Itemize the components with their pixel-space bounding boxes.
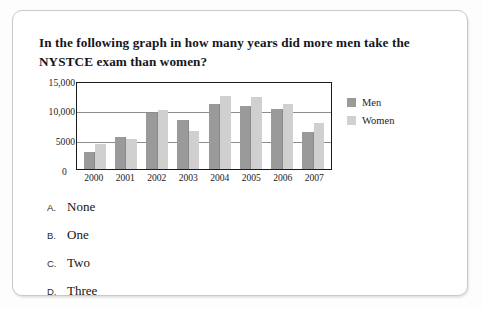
x-axis-labels: 20002001200220032004200520062007 xyxy=(76,172,332,183)
bar-men-2005 xyxy=(240,106,252,169)
question-text: In the following graph in how many years… xyxy=(39,33,449,71)
bar-women-2007 xyxy=(314,123,325,169)
x-tick-label-2006: 2006 xyxy=(272,172,294,183)
bar-men-2007 xyxy=(302,132,314,169)
bar-group-2006 xyxy=(271,83,293,169)
legend-item-men: Men xyxy=(347,97,394,108)
x-tick-label-2007: 2007 xyxy=(303,172,325,183)
bar-group-2003 xyxy=(177,83,199,169)
bar-men-2004 xyxy=(209,104,221,169)
x-tick-label-2005: 2005 xyxy=(240,172,262,183)
bar-women-2000 xyxy=(95,144,106,169)
x-tick-label-2002: 2002 xyxy=(146,172,168,183)
bar-men-2000 xyxy=(84,152,96,169)
legend-swatch-women-icon xyxy=(347,116,356,125)
option-label: One xyxy=(67,227,89,243)
x-tick-label-2003: 2003 xyxy=(177,172,199,183)
option-two[interactable]: C.Two xyxy=(47,255,347,271)
bar-men-2002 xyxy=(146,113,158,169)
bar-group-2000 xyxy=(84,83,106,169)
bar-women-2005 xyxy=(251,97,262,169)
bar-chart: 15,000 10,000 5000 0 2000200120022003200… xyxy=(35,77,445,187)
chart-legend: Men Women xyxy=(347,97,394,133)
legend-label-men: Men xyxy=(362,97,381,108)
bar-women-2006 xyxy=(283,104,294,169)
option-none[interactable]: A.None xyxy=(47,199,347,215)
legend-label-women: Women xyxy=(362,115,394,126)
bar-men-2006 xyxy=(271,109,283,169)
option-one[interactable]: B.One xyxy=(47,227,347,243)
bar-group-2002 xyxy=(146,83,168,169)
bar-women-2002 xyxy=(158,110,169,169)
bar-group-2005 xyxy=(240,83,262,169)
answer-options: A.NoneB.OneC.TwoD.Three xyxy=(47,199,347,309)
bar-men-2003 xyxy=(177,120,189,169)
option-letter: D. xyxy=(47,286,67,297)
x-tick-label-2000: 2000 xyxy=(83,172,105,183)
bar-men-2001 xyxy=(115,137,127,169)
bar-groups xyxy=(77,83,331,169)
plot-area xyxy=(76,82,332,170)
legend-item-women: Women xyxy=(347,115,394,126)
question-card: In the following graph in how many years… xyxy=(12,10,468,296)
x-tick-label-2001: 2001 xyxy=(114,172,136,183)
bar-women-2003 xyxy=(189,131,200,169)
option-letter: C. xyxy=(47,258,67,269)
legend-swatch-men-icon xyxy=(347,98,356,107)
x-tick-label-2004: 2004 xyxy=(209,172,231,183)
y-axis-labels: 15,000 10,000 5000 xyxy=(35,77,75,177)
option-label: Three xyxy=(67,283,97,299)
bar-women-2001 xyxy=(126,139,137,169)
y-tick-label-0: 0 xyxy=(62,166,67,177)
option-label: None xyxy=(67,199,95,215)
option-letter: B. xyxy=(47,230,67,241)
bar-women-2004 xyxy=(220,96,231,169)
option-label: Two xyxy=(67,255,90,271)
y-tick-label-10000: 10,000 xyxy=(49,106,75,117)
bar-group-2004 xyxy=(209,83,231,169)
page-root: In the following graph in how many years… xyxy=(0,0,482,309)
option-three[interactable]: D.Three xyxy=(47,283,347,299)
bar-group-2001 xyxy=(115,83,137,169)
y-tick-label-15000: 15,000 xyxy=(49,77,75,88)
bar-group-2007 xyxy=(302,83,324,169)
option-letter: A. xyxy=(47,202,67,213)
y-tick-label-5000: 5000 xyxy=(56,135,75,146)
